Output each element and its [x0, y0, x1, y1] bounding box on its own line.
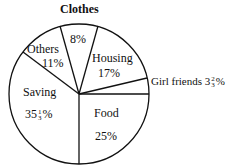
label-housing-pct: 17% — [98, 67, 120, 80]
label-saving: Saving — [23, 86, 56, 99]
label-girlfriends-whole: 3 — [205, 75, 211, 87]
fraction: 23 — [211, 76, 215, 88]
label-girlfriends-text: Girl friends — [151, 75, 202, 87]
label-clothes: Clothes — [60, 3, 99, 16]
label-others-pct: 11% — [42, 57, 64, 70]
label-clothes-pct: 8% — [70, 33, 86, 46]
label-others: Others — [27, 43, 59, 56]
label-food-pct: 25% — [95, 130, 117, 143]
label-girlfriends: Girl friends 323% — [151, 75, 225, 88]
label-food: Food — [94, 107, 119, 120]
label-saving-pct: 3513% — [25, 108, 53, 121]
label-housing: Housing — [92, 52, 133, 65]
fraction: 13 — [38, 109, 42, 121]
